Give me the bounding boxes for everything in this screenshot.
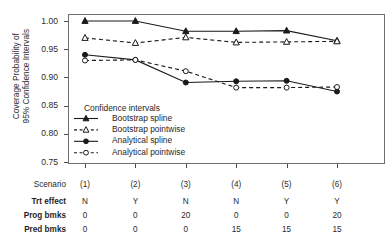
- legend-label-analytical-spline: Analytical spline: [112, 135, 172, 145]
- y-axis-tick-label: 0.95: [32, 44, 58, 54]
- legend-symbols: [72, 114, 112, 166]
- data-point-marker: [234, 85, 239, 90]
- table-cell: 15: [270, 225, 304, 234]
- table-cell: Y: [118, 197, 152, 206]
- table-row-label-pred-bmks: Pred bmks: [0, 225, 66, 234]
- data-point-marker: [284, 78, 289, 83]
- data-point-marker: [183, 80, 188, 85]
- table-cell: Y: [270, 197, 304, 206]
- table-cell: 0: [118, 225, 152, 234]
- table-cell: Y: [320, 197, 354, 206]
- y-axis-label-line1: Coverage Probability of: [11, 33, 21, 119]
- y-axis-label-container: Coverage Probability of 95% Confidence I…: [0, 0, 34, 180]
- table-cell: 20: [320, 211, 354, 220]
- table-row-label-scenario: Scenario: [0, 180, 66, 189]
- legend-title: Confidence intervals: [84, 103, 160, 113]
- x-axis-tick: [186, 164, 187, 168]
- table-row-label-trt-effect: Trt effect: [0, 197, 66, 206]
- table-cell: (3): [169, 180, 203, 189]
- data-point-marker: [133, 57, 138, 62]
- data-point-marker: [183, 34, 189, 40]
- table-cell: (2): [118, 180, 152, 189]
- data-point-marker: [335, 85, 340, 90]
- legend-label-analytical-pointwise: Analytical pointwise: [112, 147, 185, 157]
- table-cell: N: [219, 197, 253, 206]
- y-axis-label: Coverage Probability of 95% Confidence I…: [11, 1, 31, 151]
- table-cell: 0: [270, 211, 304, 220]
- y-axis-tick-label: 0.75: [32, 157, 58, 167]
- legend-marker-3: [84, 150, 89, 155]
- y-axis-label-line2: 95% Confidence Intervals: [21, 29, 31, 124]
- y-axis-tick-label: 0.90: [32, 72, 58, 82]
- table-cell: 0: [118, 211, 152, 220]
- chart-figure: Coverage Probability of 95% Confidence I…: [0, 0, 392, 245]
- table-cell: (5): [270, 180, 304, 189]
- x-axis-tick: [135, 164, 136, 168]
- y-axis-tick-label: 0.85: [32, 100, 58, 110]
- table-cell: (4): [219, 180, 253, 189]
- table-cell: 20: [169, 211, 203, 220]
- data-point-marker: [83, 52, 88, 57]
- table-row-label-prog-bmks: Prog bmks: [0, 211, 66, 220]
- x-axis-tick: [236, 164, 237, 168]
- series-bootstrap-pointwise: [82, 34, 340, 45]
- table-cell: N: [68, 197, 102, 206]
- table-cell: 0: [68, 225, 102, 234]
- legend-label-bootstrap-spline: Bootstrap spline: [112, 113, 172, 123]
- y-axis-tick-label: 0.80: [32, 128, 58, 138]
- series-analytical-pointwise: [83, 57, 340, 90]
- table-cell: 0: [219, 211, 253, 220]
- data-point-marker: [82, 35, 88, 41]
- series-line: [85, 21, 337, 41]
- y-axis-tick-label: 1.00: [32, 16, 58, 26]
- legend-marker-2: [84, 139, 89, 144]
- legend-label-bootstrap-pointwise: Bootstrap pointwise: [112, 124, 185, 134]
- table-cell: (1): [68, 180, 102, 189]
- x-axis-tick: [287, 164, 288, 168]
- table-cell: 15: [219, 225, 253, 234]
- table-cell: 0: [169, 225, 203, 234]
- data-point-marker: [284, 85, 289, 90]
- x-axis-tick: [337, 164, 338, 168]
- table-cell: (6): [320, 180, 354, 189]
- series-line: [85, 37, 337, 43]
- table-cell: N: [169, 197, 203, 206]
- table-cell: 0: [68, 211, 102, 220]
- table-cell: 15: [320, 225, 354, 234]
- data-point-marker: [183, 69, 188, 74]
- data-point-marker: [234, 79, 239, 84]
- data-point-marker: [83, 58, 88, 63]
